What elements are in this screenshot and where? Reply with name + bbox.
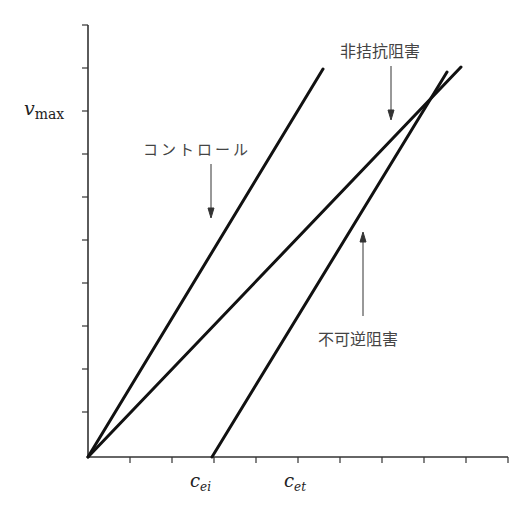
irreversible-arrow (360, 232, 366, 316)
diagram-canvas (0, 0, 532, 511)
control-line (88, 69, 323, 457)
x-ticks (130, 457, 508, 463)
irreversible-label: 不可逆阻害 (318, 326, 398, 350)
y-ticks (82, 25, 88, 412)
cet-label: cet (284, 470, 306, 494)
cei-label: cei (190, 470, 211, 494)
noncompetitive-line (88, 67, 461, 457)
noncompetitive-arrow (388, 66, 394, 120)
vmax-label: vmax (24, 97, 64, 122)
control-arrow (208, 164, 214, 218)
control-label: コントロール (143, 138, 251, 159)
noncompetitive-label: 非拮抗阻害 (340, 38, 420, 62)
irreversible-line (212, 72, 447, 457)
